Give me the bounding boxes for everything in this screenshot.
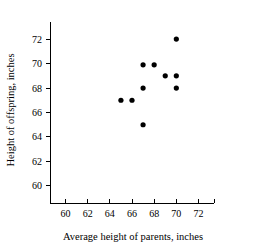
y-tick-label: 64 xyxy=(32,131,42,142)
data-points-layer xyxy=(118,37,179,128)
y-tick-label: 60 xyxy=(32,180,42,191)
data-point xyxy=(174,73,179,78)
plot-canvas: 60626466687072 60626466687072 Average he… xyxy=(0,0,255,246)
y-tick-label: 72 xyxy=(32,34,42,45)
data-point xyxy=(174,37,179,42)
x-tick-label: 60 xyxy=(61,208,71,219)
x-axis-title: Average height of parents, inches xyxy=(63,231,203,242)
y-axis-title: Height of offspring, inches xyxy=(5,54,16,167)
x-tick-label: 64 xyxy=(105,208,115,219)
data-point xyxy=(163,73,168,78)
y-tick-label: 66 xyxy=(32,107,42,118)
x-tick-label: 72 xyxy=(193,208,203,219)
x-axis: 60626466687072 xyxy=(50,199,214,219)
scatter-plot-figure: 60626466687072 60626466687072 Average he… xyxy=(0,0,255,246)
y-tick-label: 68 xyxy=(32,83,42,94)
x-tick-label: 68 xyxy=(149,208,159,219)
x-tick-label: 62 xyxy=(83,208,93,219)
data-point xyxy=(152,62,157,67)
data-point xyxy=(140,62,145,67)
data-point xyxy=(118,98,123,103)
y-axis: 60626466687072 xyxy=(32,22,50,203)
x-tick-label: 70 xyxy=(171,208,181,219)
data-point xyxy=(129,98,134,103)
x-tick-label: 66 xyxy=(127,208,137,219)
data-point xyxy=(174,85,179,90)
data-point xyxy=(140,85,145,90)
y-tick-label: 62 xyxy=(32,156,42,167)
data-point xyxy=(140,122,145,127)
y-tick-label: 70 xyxy=(32,58,42,69)
